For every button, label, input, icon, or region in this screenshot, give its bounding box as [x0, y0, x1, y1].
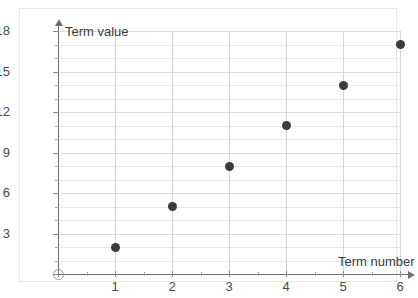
y-axis-tick-label: 12: [0, 105, 10, 118]
y-axis-tick: [53, 112, 59, 113]
x-axis-tick-label: 4: [271, 280, 301, 293]
x-axis-tick: [201, 272, 202, 276]
x-axis-tick-label: 2: [157, 280, 187, 293]
data-point: [282, 121, 291, 130]
x-axis-arrow-icon: [408, 271, 415, 279]
x-axis-tick: [172, 271, 173, 277]
y-axis-tick: [53, 31, 59, 32]
plot-area: [58, 31, 400, 274]
gridline-vertical: [229, 31, 230, 274]
x-axis-tick: [372, 272, 373, 276]
y-axis-tick: [55, 180, 59, 181]
data-point: [339, 81, 348, 90]
gridline-vertical: [286, 31, 287, 274]
x-axis-tick: [229, 271, 230, 277]
x-axis-tick-label: 3: [214, 280, 244, 293]
x-axis-tick: [115, 271, 116, 277]
data-point: [225, 162, 234, 171]
y-axis-tick: [55, 126, 59, 127]
y-axis-tick: [55, 220, 59, 221]
y-axis-arrow-icon: [55, 19, 63, 26]
y-axis-tick: [55, 45, 59, 46]
gridline-vertical: [343, 31, 344, 274]
x-axis-tick: [315, 272, 316, 276]
data-point: [396, 40, 405, 49]
y-axis-tick: [55, 139, 59, 140]
x-axis-tick-label: 1: [100, 280, 130, 293]
x-axis-tick: [87, 272, 88, 276]
x-axis-tick-label: 5: [328, 280, 358, 293]
x-axis-tick: [343, 271, 344, 277]
y-axis-tick: [55, 99, 59, 100]
gridline-vertical: [115, 31, 116, 274]
y-axis-tick-label: 15: [0, 65, 10, 78]
x-axis-tick: [400, 271, 401, 277]
y-axis-tick: [55, 166, 59, 167]
y-axis-tick-label: 18: [0, 24, 10, 37]
y-axis-title: Term value: [65, 24, 129, 39]
y-axis-tick: [53, 193, 59, 194]
y-axis-line: [58, 23, 59, 275]
gridline-vertical: [400, 31, 401, 274]
data-point: [168, 202, 177, 211]
x-axis-tick-label: 6: [385, 280, 415, 293]
y-axis-tick-label: 3: [0, 227, 10, 240]
x-axis-tick: [258, 272, 259, 276]
y-axis-tick: [53, 72, 59, 73]
x-axis-tick: [286, 271, 287, 277]
gridline-vertical: [172, 31, 173, 274]
y-axis-tick: [55, 58, 59, 59]
x-axis-title: Term number: [338, 254, 415, 269]
x-axis-tick: [144, 272, 145, 276]
y-axis-tick: [55, 207, 59, 208]
y-axis-tick: [55, 247, 59, 248]
x-axis-line: [54, 274, 409, 275]
y-axis-tick: [53, 234, 59, 235]
data-point: [111, 243, 120, 252]
y-axis-tick-label: 9: [0, 146, 10, 159]
x-axis-tick: [58, 271, 59, 277]
y-axis-tick: [53, 153, 59, 154]
y-axis-tick-label: 6: [0, 186, 10, 199]
y-axis-tick: [55, 261, 59, 262]
chart-screenshot: 369121518 123456 Term value Term number: [0, 0, 418, 298]
chart-card: 369121518 123456 Term value Term number: [19, 8, 397, 282]
y-axis-tick: [55, 85, 59, 86]
